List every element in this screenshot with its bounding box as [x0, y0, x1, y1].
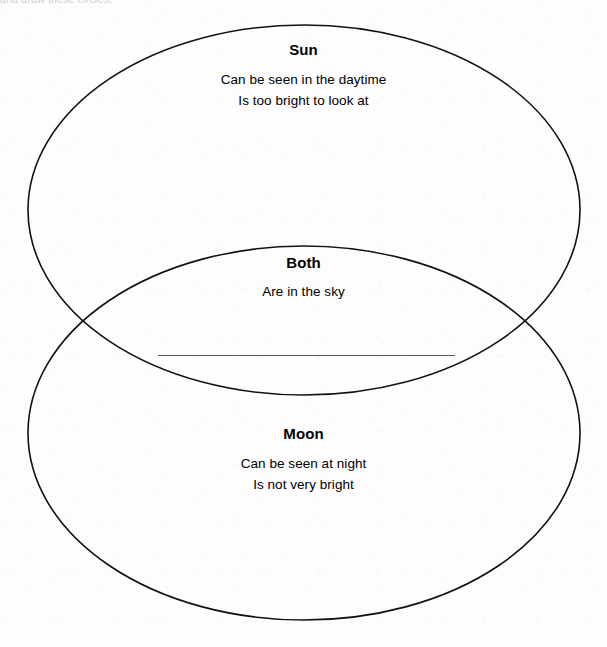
- sun-region-labels: Sun Can be seen in the daytime Is too br…: [0, 40, 607, 111]
- moon-fact-1: Can be seen at night: [0, 453, 607, 474]
- sun-fact-2: Is too bright to look at: [0, 90, 607, 111]
- worksheet-page: and draw these circles. Sun Can be seen …: [0, 0, 607, 647]
- sun-title: Sun: [0, 40, 607, 60]
- moon-title: Moon: [0, 424, 607, 444]
- moon-region-labels: Moon Can be seen at night Is not very br…: [0, 424, 607, 495]
- blank-answer-line[interactable]: [158, 355, 455, 356]
- sun-fact-1: Can be seen in the daytime: [0, 69, 607, 90]
- both-region-labels: Both Are in the sky: [0, 253, 607, 302]
- both-title: Both: [0, 253, 607, 273]
- both-fact-1: Are in the sky: [0, 281, 607, 302]
- moon-fact-2: Is not very bright: [0, 474, 607, 495]
